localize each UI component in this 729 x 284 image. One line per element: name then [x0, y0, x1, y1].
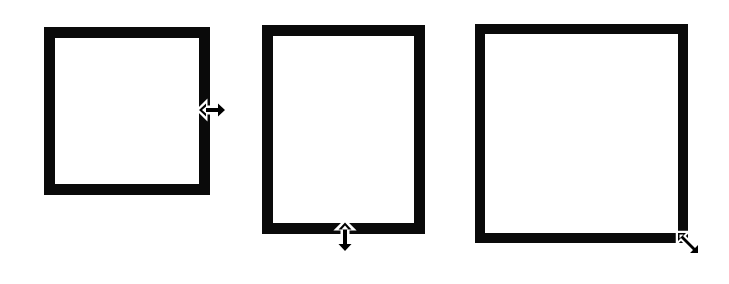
vertical-resize-icon[interactable] [335, 220, 355, 254]
frame-horizontal-resize[interactable] [44, 27, 210, 195]
frame-diagonal-resize[interactable] [475, 24, 688, 243]
horizontal-resize-icon[interactable] [196, 100, 228, 120]
diagonal-resize-icon[interactable] [676, 231, 702, 257]
frame-vertical-resize[interactable] [262, 25, 425, 234]
